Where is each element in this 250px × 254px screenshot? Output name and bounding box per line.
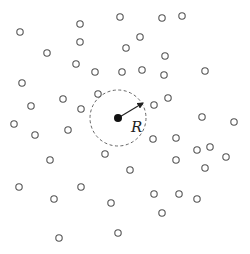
diagram-svg: R — [0, 0, 250, 254]
scatter-point — [78, 106, 84, 112]
scatter-point — [123, 45, 129, 51]
scatter-point — [77, 21, 83, 27]
scatter-point — [115, 230, 121, 236]
scatter-point — [92, 69, 98, 75]
scatter-point — [17, 29, 23, 35]
scatter-point — [19, 80, 25, 86]
scatter-point — [223, 154, 229, 160]
scatter-point — [202, 165, 208, 171]
scatter-point — [65, 127, 71, 133]
scatter-point — [44, 50, 50, 56]
scatter-point — [231, 119, 237, 125]
scatter-point — [194, 147, 200, 153]
scatter-point — [119, 69, 125, 75]
scatter-point — [173, 157, 179, 163]
scatter-point — [173, 135, 179, 141]
scatter-point — [159, 210, 165, 216]
scatter-point — [32, 132, 38, 138]
scatter-point — [151, 191, 157, 197]
scatter-point — [47, 157, 53, 163]
scatter-points — [11, 13, 237, 241]
scatter-point — [151, 102, 157, 108]
scatter-point — [179, 13, 185, 19]
scatter-point — [127, 167, 133, 173]
scatter-point — [56, 235, 62, 241]
center-point — [114, 114, 122, 122]
scatter-point — [162, 53, 168, 59]
scatter-point — [28, 103, 34, 109]
scatter-point — [159, 15, 165, 21]
scatter-point — [165, 95, 171, 101]
scatter-point — [139, 67, 145, 73]
scatter-point — [194, 196, 200, 202]
scatter-point — [108, 200, 114, 206]
scatter-point — [60, 96, 66, 102]
scatter-point — [78, 184, 84, 190]
scatter-point — [161, 72, 167, 78]
scatter-point — [137, 34, 143, 40]
scatter-point — [51, 196, 57, 202]
scatter-point — [207, 144, 213, 150]
scatter-point — [16, 184, 22, 190]
scatter-point — [11, 121, 17, 127]
radius-arrow — [118, 103, 143, 118]
scatter-point — [77, 39, 83, 45]
scatter-point — [102, 151, 108, 157]
scatter-point — [73, 61, 79, 67]
scatter-point — [199, 114, 205, 120]
scatter-point — [176, 191, 182, 197]
point-neighborhood-diagram: R — [0, 0, 250, 254]
scatter-point — [202, 68, 208, 74]
scatter-point — [117, 14, 123, 20]
radius-label: R — [130, 118, 142, 136]
scatter-point — [150, 136, 156, 142]
